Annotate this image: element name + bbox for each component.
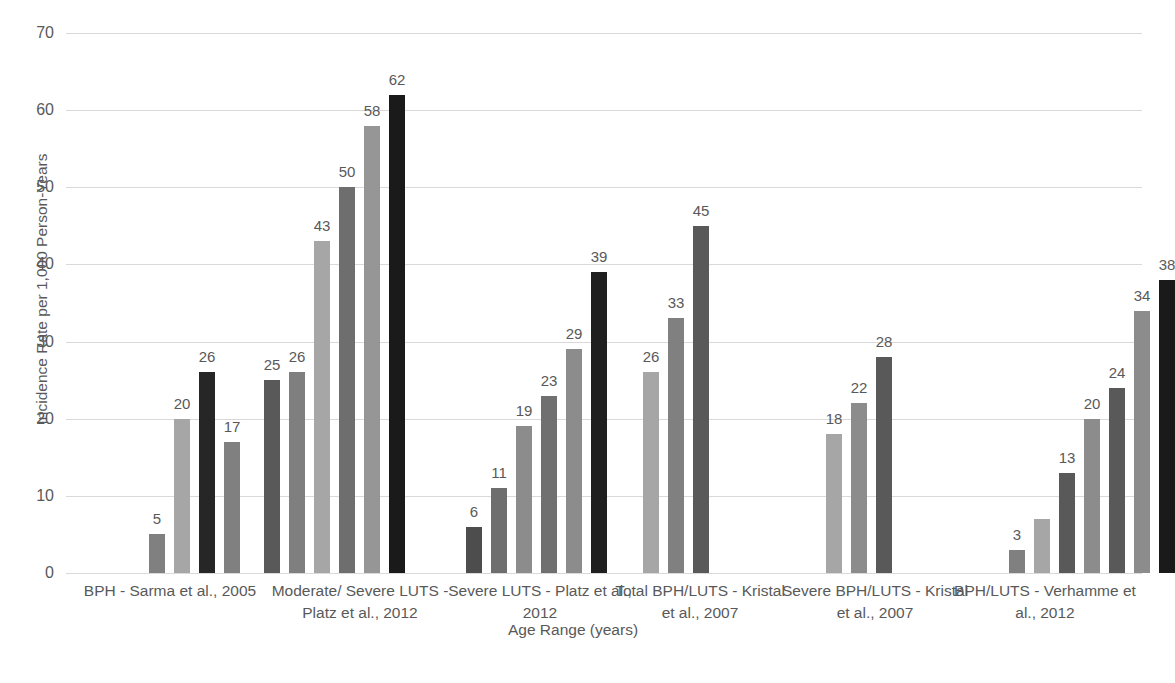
bar [224,442,240,573]
bar-value-label: 23 [541,372,558,389]
bar [149,534,165,573]
bar [668,318,684,573]
y-tick-label: 0 [8,564,54,582]
bar [1059,473,1075,573]
bar-value-label: 20 [174,395,191,412]
bar-value-label: 6 [470,503,478,520]
bar-value-label: 26 [643,348,660,365]
bar [466,527,482,573]
plot-area: 5202617252643505862611192329392633451822… [66,33,1142,573]
bar [591,272,607,573]
bar [1134,311,1150,573]
bar-value-label: 11 [491,464,507,481]
bar-value-label: 18 [826,410,843,427]
y-tick-label: 60 [8,101,54,119]
bar-value-label: 29 [566,325,583,342]
bar [851,403,867,573]
bar-value-label: 26 [199,348,216,365]
x-group-label-line: BPH/LUTS - Verhamme et [930,580,1160,602]
bar-value-label: 62 [389,71,406,88]
bar-value-label: 39 [591,248,608,265]
y-tick-label: 10 [8,487,54,505]
bar [876,357,892,573]
bar [1084,419,1100,573]
bar-value-label: 5 [153,510,161,527]
bar [339,187,355,573]
bar [643,372,659,573]
bar [289,372,305,573]
bar-value-label: 33 [668,294,685,311]
bar [174,419,190,573]
bar [491,488,507,573]
bar-value-label: 24 [1109,364,1126,381]
y-tick-label: 30 [8,333,54,351]
bar [566,349,582,573]
bar-value-label: 25 [264,356,281,373]
bar-value-label: 20 [1084,395,1101,412]
bar [389,95,405,573]
bar [264,380,280,573]
bar [199,372,215,573]
bar-value-label: 17 [224,418,241,435]
bar-value-label: 38 [1159,256,1175,273]
bar-value-label: 50 [339,163,356,180]
bar-value-label: 34 [1134,287,1151,304]
bar [541,396,557,573]
bar [1159,280,1175,573]
bar [1109,388,1125,573]
y-tick-label: 20 [8,410,54,428]
bar-value-label: 3 [1013,526,1021,543]
bar [314,241,330,573]
bar [1009,550,1025,573]
bar [693,226,709,573]
bar-value-label: 43 [314,217,331,234]
y-tick-label: 70 [8,24,54,42]
bar-value-label: 58 [364,102,381,119]
bar-value-label: 13 [1059,449,1076,466]
x-axis-title: Age Range (years) [0,621,1146,639]
bar-value-label: 26 [289,348,306,365]
bar-value-label: 22 [851,379,868,396]
bar-value-label: 19 [516,402,533,419]
gridline-0 [66,573,1142,574]
bar-value-label: 45 [693,202,710,219]
bar [364,126,380,573]
bar [1034,519,1050,573]
x-group-label: BPH/LUTS - Verhamme etal., 2012 [930,580,1160,625]
y-tick-label: 40 [8,255,54,273]
bar-value-label: 28 [876,333,893,350]
bar [516,426,532,573]
y-tick-label: 50 [8,178,54,196]
bar [826,434,842,573]
